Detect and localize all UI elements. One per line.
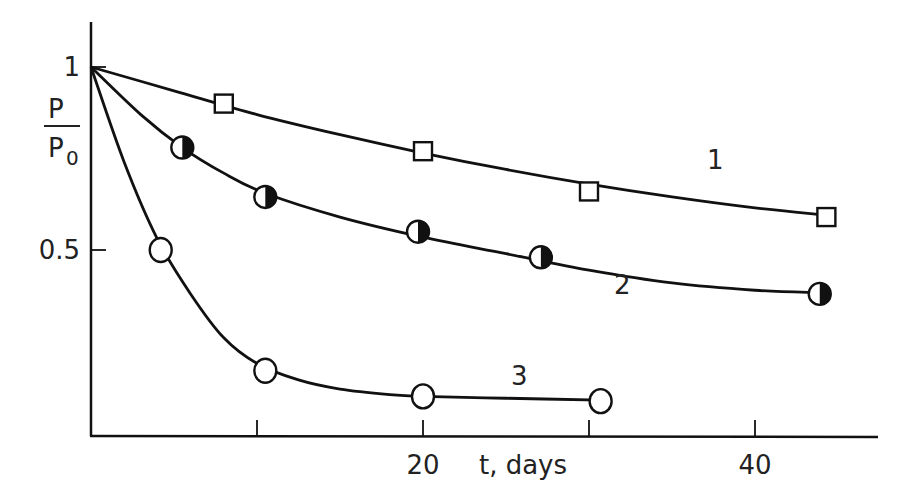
y-label-denominator: P — [48, 133, 64, 163]
square-marker — [414, 142, 432, 160]
circle-marker — [590, 389, 612, 413]
series-1-curve — [91, 67, 826, 215]
curves — [91, 67, 826, 400]
x-tick-label: 40 — [738, 450, 771, 480]
half-filled-circle-marker — [407, 221, 429, 243]
series-3-curve — [91, 67, 601, 400]
chart: 204010.5 123 P P 0 t, days — [0, 0, 909, 503]
series-label: 2 — [614, 270, 631, 300]
ticks — [91, 67, 755, 436]
series-label: 1 — [707, 145, 724, 175]
y-label-numerator: P — [48, 94, 64, 124]
axes — [90, 22, 878, 437]
square-marker — [215, 95, 233, 113]
x-axis-label: t, days — [479, 450, 567, 480]
markers — [150, 95, 836, 414]
half-filled-circle-marker — [809, 283, 831, 305]
square-marker — [580, 182, 598, 200]
x-tick-label: 20 — [406, 450, 439, 480]
half-filled-circle-marker — [171, 137, 193, 159]
half-filled-circle-marker — [254, 186, 276, 208]
circle-marker — [150, 238, 172, 262]
x-axis — [90, 436, 878, 437]
tick-labels: 204010.5 — [39, 52, 772, 480]
y-axis-label: P P 0 — [44, 94, 80, 170]
circle-marker — [412, 384, 434, 408]
series-2-curve — [91, 67, 820, 293]
half-filled-circle-marker — [530, 246, 552, 268]
y-tick-label: 1 — [63, 52, 80, 82]
y-tick-label: 0.5 — [39, 235, 80, 265]
series-label: 3 — [511, 361, 528, 391]
circle-marker — [254, 359, 276, 383]
square-marker — [817, 208, 835, 226]
y-label-subscript: 0 — [66, 146, 79, 170]
